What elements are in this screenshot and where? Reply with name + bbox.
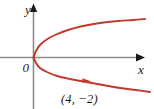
x-axis-label: x: [137, 62, 144, 77]
y-axis-label: y: [23, 2, 31, 17]
graph-canvas: y x 0 (4, −2): [0, 0, 154, 109]
origin-label: 0: [23, 60, 30, 75]
math-figure: y x 0 (4, −2): [0, 0, 154, 109]
point-coordinate-label: (4, −2): [61, 92, 98, 106]
